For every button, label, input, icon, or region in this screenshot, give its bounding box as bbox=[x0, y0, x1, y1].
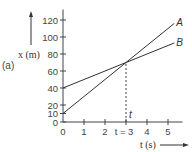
y-tick-label: 60 bbox=[47, 66, 58, 77]
panel-label: (a) bbox=[2, 60, 14, 71]
x-tick-label: 0 bbox=[60, 126, 65, 137]
series-line-b bbox=[63, 43, 174, 88]
y-axis-label: x (m) bbox=[18, 49, 40, 61]
y-tick-label: 40 bbox=[47, 83, 58, 94]
position-time-chart: 01020406080100120012t = 345tABx (m)t (s)… bbox=[0, 0, 192, 152]
series-label-b: B bbox=[176, 37, 183, 48]
y-tick-label: 20 bbox=[47, 100, 58, 111]
x-arrow-head-icon bbox=[183, 143, 189, 147]
x-axis-label: t (s) bbox=[140, 139, 156, 151]
series-line-a bbox=[63, 23, 174, 113]
y-arrow-head-icon bbox=[29, 11, 33, 17]
plot-area: 01020406080100120012t = 345tABx (m)t (s)… bbox=[2, 10, 189, 152]
x-tick-label: 2 bbox=[102, 126, 107, 137]
x-tick-label: t = 3 bbox=[115, 126, 134, 137]
x-tick-label: 4 bbox=[144, 126, 149, 137]
series-label-a: A bbox=[175, 17, 183, 28]
x-tick-label: 5 bbox=[165, 126, 170, 137]
y-tick-label: 80 bbox=[47, 49, 58, 60]
y-tick-label: 120 bbox=[42, 15, 58, 26]
x-tick-label: 1 bbox=[81, 126, 86, 137]
y-tick-label: 100 bbox=[42, 32, 58, 43]
intersection-t-label: t bbox=[129, 109, 133, 120]
